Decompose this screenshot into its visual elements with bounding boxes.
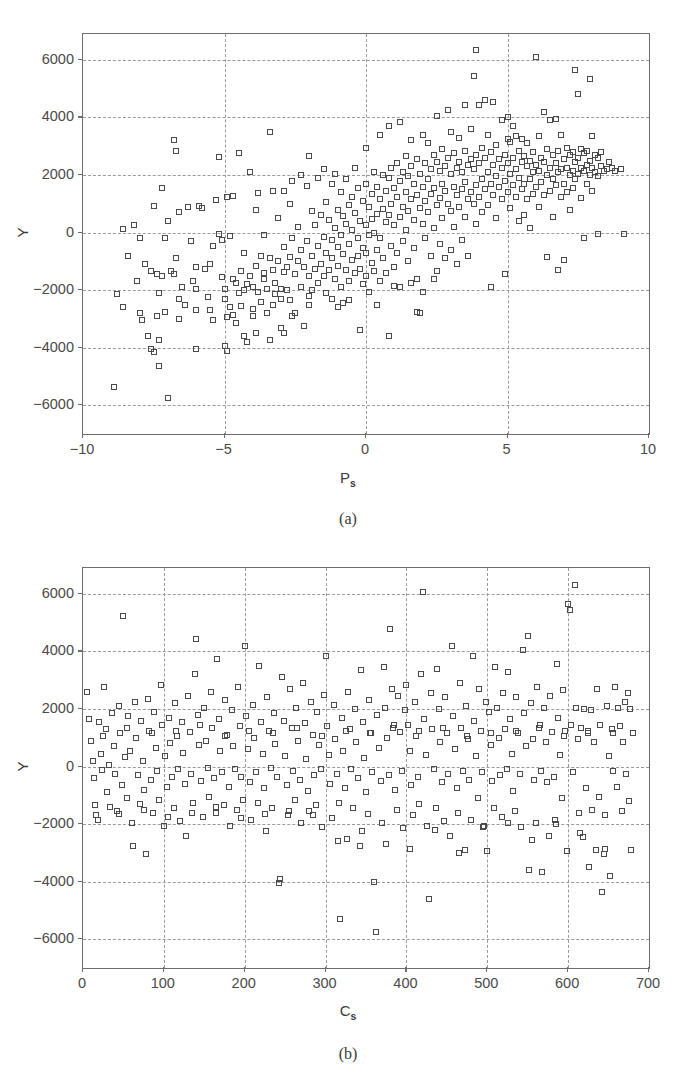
data-point-marker: [281, 188, 287, 194]
data-point-marker: [434, 268, 440, 274]
data-point-marker: [169, 774, 175, 780]
data-point-marker: [572, 176, 578, 182]
data-point-marker: [585, 728, 591, 734]
data-point-marker: [214, 656, 220, 662]
data-point-marker: [145, 333, 151, 339]
data-point-marker: [329, 296, 335, 302]
data-point-marker: [486, 709, 492, 715]
data-point-marker: [205, 294, 211, 300]
data-point-marker: [321, 273, 327, 279]
data-point-marker: [457, 680, 463, 686]
data-point-marker: [614, 784, 620, 790]
data-point-marker: [445, 771, 451, 777]
x-tick-mark: [648, 967, 649, 972]
data-point-marker: [349, 194, 355, 200]
gridline-horizontal: [83, 117, 649, 118]
data-point-marker: [437, 241, 443, 247]
data-point-marker: [417, 310, 423, 316]
data-point-marker: [595, 231, 601, 237]
data-point-marker: [312, 222, 318, 228]
data-point-marker: [399, 768, 405, 774]
data-point-marker: [293, 705, 299, 711]
data-point-marker: [321, 234, 327, 240]
data-point-marker: [120, 226, 126, 232]
data-point-marker: [380, 206, 386, 212]
data-point-marker: [237, 723, 243, 729]
y-tick-label: 0: [0, 224, 74, 239]
data-point-marker: [473, 182, 479, 188]
data-point-marker: [485, 169, 491, 175]
data-point-marker: [550, 214, 556, 220]
data-point-marker: [310, 732, 316, 738]
data-point-marker: [408, 137, 414, 143]
data-point-marker: [505, 189, 511, 195]
data-point-marker: [281, 269, 287, 275]
data-point-marker: [207, 307, 213, 313]
data-point-marker: [156, 363, 162, 369]
data-point-marker: [329, 237, 335, 243]
data-point-marker: [367, 730, 373, 736]
data-point-marker: [442, 163, 448, 169]
data-point-marker: [451, 150, 457, 156]
data-point-marker: [222, 733, 228, 739]
data-point-marker: [451, 184, 457, 190]
data-point-marker: [193, 346, 199, 352]
data-point-marker: [270, 267, 276, 273]
data-point-marker: [499, 196, 505, 202]
data-point-marker: [216, 716, 222, 722]
data-point-marker: [484, 848, 490, 854]
data-point-marker: [529, 837, 535, 843]
data-point-marker: [311, 772, 317, 778]
x-axis-title-a: Ps: [0, 470, 696, 489]
data-point-marker: [482, 155, 488, 161]
data-point-marker: [391, 222, 397, 228]
data-point-marker: [386, 175, 392, 181]
data-point-marker: [329, 181, 335, 187]
x-tick-label: 100: [151, 976, 175, 991]
data-point-marker: [172, 700, 178, 706]
data-point-marker: [510, 788, 516, 794]
data-point-marker: [242, 643, 248, 649]
data-point-marker: [471, 201, 477, 207]
data-point-marker: [573, 705, 579, 711]
data-point-marker: [415, 774, 421, 780]
data-point-marker: [489, 778, 495, 784]
data-point-marker: [250, 702, 256, 708]
data-point-marker: [335, 304, 341, 310]
data-point-marker: [392, 787, 398, 793]
data-point-marker: [490, 99, 496, 105]
data-point-marker: [459, 169, 465, 175]
data-point-marker: [189, 810, 195, 816]
data-point-marker: [570, 185, 576, 191]
data-point-marker: [578, 725, 584, 731]
data-point-marker: [595, 173, 601, 179]
data-point-marker: [473, 221, 479, 227]
data-point-marker: [397, 178, 403, 184]
data-point-marker: [448, 171, 454, 177]
x-tick-mark: [163, 967, 164, 972]
data-point-marker: [383, 270, 389, 276]
data-point-marker: [238, 774, 244, 780]
data-point-marker: [405, 258, 411, 264]
data-point-marker: [104, 789, 110, 795]
data-point-marker: [264, 694, 270, 700]
data-point-marker: [374, 247, 380, 253]
data-point-marker: [329, 815, 335, 821]
data-point-marker: [465, 253, 471, 259]
data-point-marker: [502, 726, 508, 732]
data-point-marker: [403, 682, 409, 688]
data-point-marker: [439, 146, 445, 152]
gridline-horizontal: [83, 824, 649, 825]
data-point-marker: [335, 244, 341, 250]
data-point-marker: [397, 284, 403, 290]
data-point-marker: [581, 235, 587, 241]
data-point-marker: [141, 787, 147, 793]
data-point-marker: [479, 176, 485, 182]
data-point-marker: [416, 801, 422, 807]
data-point-marker: [346, 241, 352, 247]
data-point-marker: [348, 766, 354, 772]
data-point-marker: [405, 208, 411, 214]
data-point-marker: [488, 149, 494, 155]
data-point-marker: [451, 224, 457, 230]
data-point-marker: [210, 243, 216, 249]
